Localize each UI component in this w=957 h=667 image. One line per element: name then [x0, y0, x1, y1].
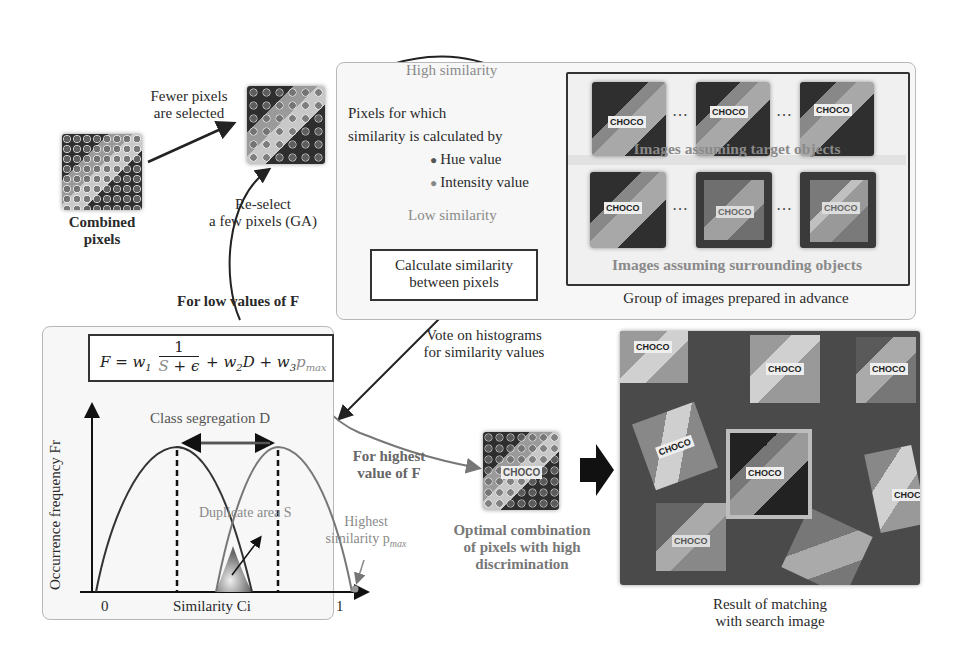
y-axis-label: Occurrence frequency Fr	[47, 390, 64, 590]
result-caption: Result of matching with search image	[660, 596, 880, 630]
choco-label: CHOCO	[766, 363, 804, 375]
highest-f-line2: value of F	[334, 465, 444, 482]
optimal-line1: Optimal combination	[432, 522, 612, 539]
choco-label: CHOCO	[672, 535, 710, 547]
optimal-caption: Optimal combination of pixels with high …	[432, 522, 612, 573]
class-segregation-text: Class segregation D	[150, 410, 270, 426]
class-segregation-label: Class segregation D	[150, 410, 270, 427]
result-line1: Result of matching	[660, 596, 880, 613]
highest-line2: similarity p	[326, 531, 390, 546]
choco-label: CHOCO	[870, 363, 908, 375]
vote-line1: Vote on histograms	[404, 327, 564, 344]
highest-f-label: For highest value of F	[334, 448, 444, 482]
x-min-tick: 0	[101, 598, 109, 615]
optimal-line3: discrimination	[432, 556, 612, 573]
choco-label: CHOCO	[501, 466, 542, 479]
optimal-combination-image: CHOCO	[483, 432, 559, 510]
highest-f-line1: For highest	[334, 448, 444, 465]
result-matching-image: CHOCO CHOCO CHOCO CHOCO CHOCO CHOCO CHOC…	[620, 331, 920, 585]
x-max-tick: 1	[336, 598, 344, 615]
choco-label: CHOCO	[892, 489, 920, 501]
choco-label: CHOCO	[634, 341, 672, 353]
highest-similarity-label: Highest similarity pmax	[316, 513, 416, 552]
choco-label: CHOCO	[746, 467, 784, 479]
optimal-line2: of pixels with high	[432, 539, 612, 556]
pmax-subscript: max	[390, 538, 407, 549]
result-line2: with search image	[660, 613, 880, 630]
vote-line2: for similarity values	[404, 344, 564, 361]
x-axis-label: Similarity Ci	[173, 598, 251, 615]
highest-line1: Highest	[316, 513, 416, 530]
duplicate-area-label: Duplicate area S	[199, 504, 292, 521]
vote-label: Vote on histograms for similarity values	[404, 327, 564, 361]
